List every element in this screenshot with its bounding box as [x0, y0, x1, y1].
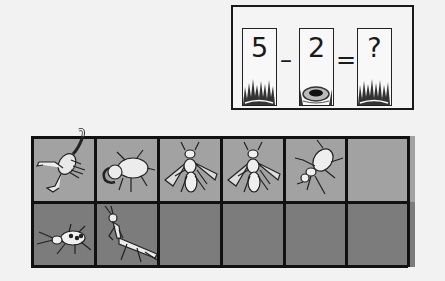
- unknown-card: ?: [357, 28, 392, 106]
- equation-panel: 5 – 2 = ?: [231, 5, 414, 110]
- card-number: 5: [243, 33, 276, 63]
- number-card-2: 2: [299, 28, 334, 106]
- grass-icon: [358, 69, 390, 105]
- number-card-5: 5: [242, 28, 277, 106]
- equals-operator: =: [336, 47, 356, 73]
- stag-beetle-icon: [97, 142, 157, 198]
- mantis-icon: [97, 204, 169, 266]
- minus-operator: –: [280, 47, 292, 73]
- longhorn-beetle-icon: [35, 220, 97, 260]
- fly-icon: [161, 140, 221, 200]
- card-number: 2: [300, 33, 333, 63]
- card-question-mark: ?: [358, 33, 391, 63]
- fly-icon: [224, 140, 284, 200]
- grid-line: [407, 136, 410, 267]
- bug-grid: [31, 136, 415, 267]
- grass-icon: [243, 69, 275, 105]
- beetle-icon: [285, 138, 347, 200]
- hole-icon: [300, 69, 332, 105]
- scorpion-icon: [33, 126, 95, 202]
